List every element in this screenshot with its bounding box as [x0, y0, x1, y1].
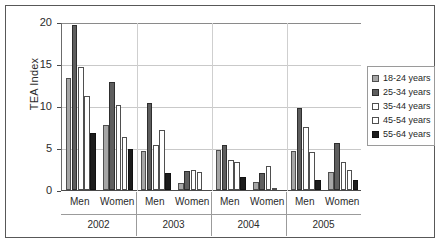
bar	[84, 96, 90, 190]
year-separator	[136, 192, 137, 236]
plot-year-separator	[212, 23, 213, 191]
bar	[216, 150, 222, 190]
bar	[128, 149, 134, 190]
legend-swatch-icon	[372, 131, 379, 138]
year-label: 2005	[286, 219, 361, 230]
y-tick-mark	[57, 23, 61, 24]
bar	[78, 67, 84, 190]
y-tick-label: 10	[24, 100, 52, 112]
bar	[303, 127, 309, 190]
bar	[347, 170, 353, 190]
bar	[234, 162, 240, 190]
bar	[66, 78, 72, 190]
bar	[353, 180, 359, 190]
bar	[147, 103, 153, 190]
legend: 18-24 years25-34 years35-44 years45-54 y…	[367, 66, 435, 146]
bar	[103, 125, 109, 190]
y-tick-mark	[57, 107, 61, 108]
bar	[328, 172, 334, 190]
legend-item[interactable]: 55-64 years	[372, 127, 431, 141]
y-tick-label: 20	[24, 16, 52, 28]
bar	[259, 173, 265, 190]
bar-group	[62, 23, 100, 190]
bar	[228, 160, 234, 190]
year-separator	[211, 192, 212, 236]
bar	[253, 182, 259, 190]
year-label: 2002	[61, 219, 136, 230]
y-axis-title: TEA Index	[28, 29, 40, 139]
legend-swatch-icon	[372, 75, 379, 82]
gender-label: Women	[249, 196, 287, 207]
bar	[109, 82, 115, 190]
bar-group	[175, 23, 213, 190]
y-tick-label: 15	[24, 58, 52, 70]
bar	[90, 133, 96, 190]
plot-year-separator	[137, 23, 138, 191]
category-axis: MenWomenMenWomenMenWomenMenWomen20022003…	[61, 192, 361, 236]
bar	[165, 173, 171, 190]
legend-label: 45-54 years	[383, 115, 431, 125]
bar	[159, 130, 165, 190]
bar	[309, 152, 315, 190]
bar	[334, 143, 340, 190]
plot-year-separator	[287, 23, 288, 191]
bar	[272, 188, 278, 190]
year-label: 2004	[211, 219, 286, 230]
bar	[184, 171, 190, 190]
y-tick-label: 0	[24, 184, 52, 196]
bar	[291, 151, 297, 190]
legend-swatch-icon	[372, 117, 379, 124]
bar-group	[212, 23, 250, 190]
gender-label: Men	[286, 196, 324, 207]
gender-label: Women	[174, 196, 212, 207]
bar	[266, 166, 272, 190]
chart-frame: TEA Index 05101520 MenWomenMenWomenMenWo…	[5, 5, 435, 238]
legend-swatch-icon	[372, 103, 379, 110]
gender-label: Men	[211, 196, 249, 207]
legend-label: 18-24 years	[383, 73, 431, 83]
legend-item[interactable]: 35-44 years	[372, 99, 431, 113]
bar	[191, 170, 197, 190]
legend-swatch-icon	[372, 89, 379, 96]
year-label: 2003	[136, 219, 211, 230]
bar-group	[250, 23, 288, 190]
legend-item[interactable]: 45-54 years	[372, 113, 431, 127]
legend-label: 25-34 years	[383, 87, 431, 97]
legend-item[interactable]: 25-34 years	[372, 85, 431, 99]
bar-group	[100, 23, 138, 190]
year-separator	[286, 192, 287, 236]
gender-label: Men	[61, 196, 99, 207]
y-tick-mark	[57, 65, 61, 66]
bar	[141, 151, 147, 190]
gender-label: Men	[136, 196, 174, 207]
bar	[116, 105, 122, 190]
y-tick-label: 5	[24, 142, 52, 154]
bar	[222, 145, 228, 190]
legend-label: 55-64 years	[383, 129, 431, 139]
bar-group	[325, 23, 363, 190]
bar	[341, 162, 347, 190]
gender-label: Women	[99, 196, 137, 207]
bar	[297, 108, 303, 190]
bar	[72, 25, 78, 190]
bar	[153, 145, 159, 190]
y-tick-mark	[57, 149, 61, 150]
bar	[240, 177, 246, 190]
bar	[122, 137, 128, 190]
bar	[197, 172, 203, 190]
bar	[178, 183, 184, 190]
plot-area	[61, 23, 361, 191]
bar	[315, 180, 321, 190]
legend-label: 35-44 years	[383, 101, 431, 111]
bar-group	[287, 23, 325, 190]
bar-group	[137, 23, 175, 190]
gender-label: Women	[324, 196, 362, 207]
legend-item[interactable]: 18-24 years	[372, 71, 431, 85]
